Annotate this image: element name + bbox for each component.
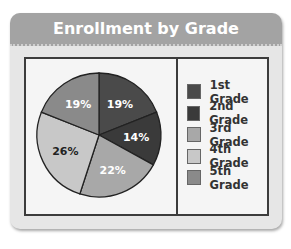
legend-swatch <box>187 170 201 185</box>
legend-item: 5th Grade <box>187 167 267 189</box>
legend-swatch <box>187 127 201 142</box>
legend: 1st Grade 2nd Grade 3rd Grade 4th Grade … <box>178 59 267 214</box>
slice-label: 22% <box>100 164 126 177</box>
slice-label: 19% <box>65 98 91 111</box>
chart-card: Enrollment by Grade 19%14%22%26%19% 1st … <box>10 13 282 229</box>
slice-label: 14% <box>123 131 149 144</box>
pie-chart: 19%14%22%26%19% <box>26 59 178 214</box>
slice-label: 26% <box>52 145 78 158</box>
slice-label: 19% <box>107 98 133 111</box>
chart-title: Enrollment by Grade <box>10 13 282 46</box>
chart-frame: 19%14%22%26%19% 1st Grade 2nd Grade 3rd … <box>24 57 269 216</box>
pie-svg: 19%14%22%26%19% <box>26 59 176 214</box>
legend-swatch <box>187 84 201 99</box>
legend-swatch <box>187 149 201 164</box>
legend-swatch <box>187 106 200 121</box>
